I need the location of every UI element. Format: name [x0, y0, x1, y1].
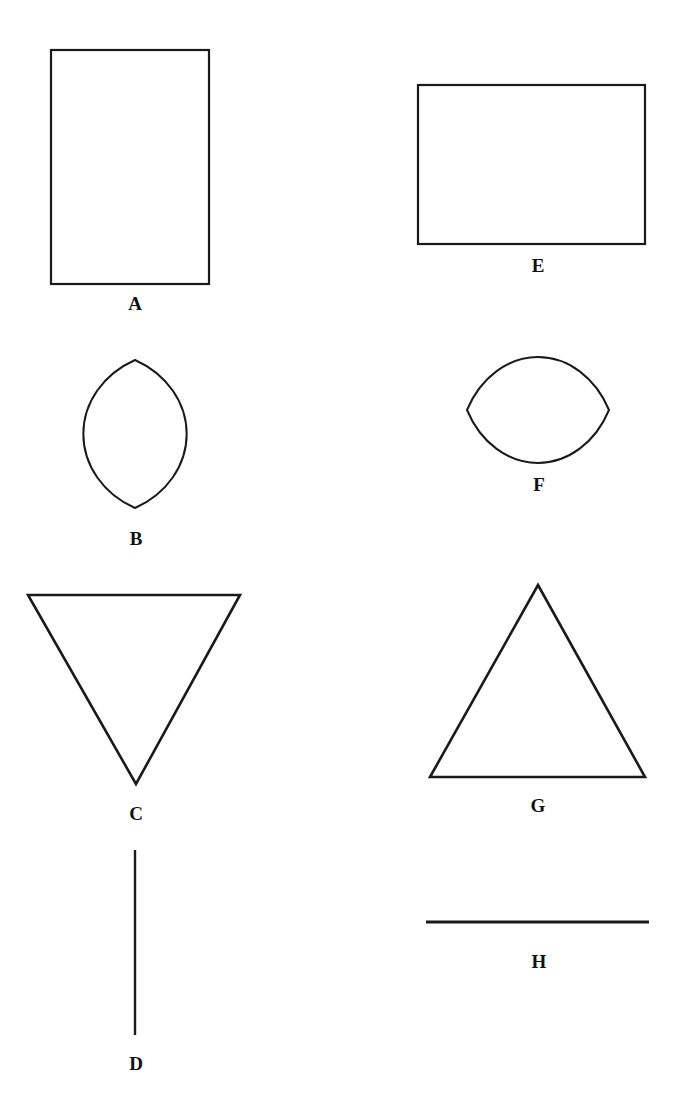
shape-layer	[28, 50, 649, 1035]
shape-label-a: A	[128, 293, 142, 314]
shape-c-triangle	[28, 595, 240, 784]
shape-a-rectangle	[51, 50, 209, 284]
shape-label-e: E	[532, 255, 545, 276]
shape-b-lens	[83, 360, 186, 508]
shape-f-lens	[467, 357, 609, 463]
shape-label-b: B	[130, 528, 143, 549]
shape-label-h: H	[532, 951, 547, 972]
shape-label-f: F	[533, 474, 545, 495]
shape-e-rectangle	[418, 85, 645, 244]
shape-label-d: D	[129, 1053, 143, 1074]
shape-g-triangle	[430, 585, 645, 777]
label-layer: AEBFCGDH	[128, 255, 546, 1074]
shape-label-c: C	[129, 803, 143, 824]
shapes-figure-canvas: AEBFCGDH	[0, 0, 681, 1110]
shape-label-g: G	[531, 795, 546, 816]
